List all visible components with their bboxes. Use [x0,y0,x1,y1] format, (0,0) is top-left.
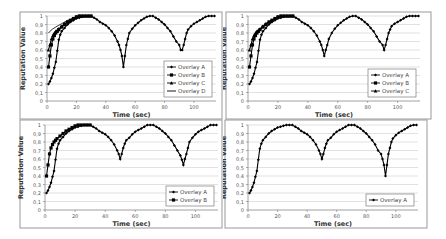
legend: Overlay AOverlay B [166,186,214,206]
x-tick-label: 80 [364,104,370,110]
legend-entry: Overlay A [180,189,207,196]
square-marker [374,81,377,84]
chart-svg: 00,10,20,30,40,50,60,70,80,9102040608010… [0,118,223,239]
y-tick-label: 0,5 [35,56,43,62]
x-tick-label: 80 [162,213,168,219]
y-tick-label: 0,4 [33,173,41,179]
square-marker [49,146,52,149]
y-tick-label: 0,2 [236,190,244,196]
x-tick-label: 40 [304,213,310,219]
x-tick-label: 100 [391,213,401,219]
chart-svg: 00,10,20,30,40,50,60,70,80,9102040608010… [223,118,446,239]
x-tick-label: 0 [43,213,46,219]
chart-frame [226,12,431,119]
y-tick-label: 0,5 [33,165,41,171]
x-tick-label: 0 [45,104,48,110]
y-tick-label: 0,2 [33,190,41,196]
x-tick-label: 60 [132,104,138,110]
x-tick-label: 20 [73,104,79,110]
square-marker [47,65,50,68]
y-tick-label: 0,7 [35,39,43,45]
chart-panel-top-right: 00,10,20,30,40,50,60,70,80,9102040608010… [223,0,446,120]
y-tick-label: 0,6 [33,156,41,162]
square-marker [48,54,51,57]
x-tick-label: 60 [335,104,341,110]
legend: Overlay A [366,194,414,206]
y-tick-label: 0,1 [35,90,43,96]
y-axis-label: Reputation Value [19,26,27,90]
x-tick-label: 20 [274,213,280,219]
square-marker [249,54,252,57]
square-marker [258,28,261,31]
legend-entry: Overlay A [382,72,409,79]
y-tick-label: 0,9 [33,131,41,137]
legend-entry: Overlay B [178,72,205,79]
square-marker [170,73,173,76]
y-tick-label: 0,3 [236,73,244,79]
legend-entry: Overlay C [382,88,409,95]
y-tick-label: 0,4 [236,173,244,179]
square-marker [57,28,60,31]
x-tick-label: 100 [191,213,201,219]
y-tick-label: 0,5 [236,56,244,62]
square-marker [63,23,66,26]
x-tick-label: 100 [393,104,403,110]
square-marker [248,65,251,68]
y-tick-label: 0,7 [236,39,244,45]
y-tick-label: 0,6 [35,47,43,53]
y-tick-label: 0,1 [236,90,244,96]
y-tick-label: 1 [241,122,244,128]
legend-entry: Overlay C [178,80,205,87]
x-tick-label: 60 [132,213,138,219]
y-tick-label: 0 [38,207,41,213]
y-tick-label: 0,1 [33,199,41,205]
y-tick-label: 0,3 [35,73,43,79]
legend-entry: Overlay A [178,64,205,71]
x-tick-label: 40 [305,104,311,110]
x-tick-label: 80 [363,213,369,219]
y-tick-label: 0,4 [35,64,43,70]
y-tick-label: 0,2 [236,81,244,87]
chart-frame [225,120,427,228]
y-tick-label: 0,5 [236,165,244,171]
x-tick-label: 20 [72,213,78,219]
x-tick-label: 80 [161,104,167,110]
chart-frame [20,120,222,228]
square-marker [55,137,58,140]
chart-panel-top-left: 00,10,20,30,40,50,60,70,80,9102040608010… [0,0,223,120]
y-tick-label: 0,6 [236,47,244,53]
chart-panel-bottom-right: 00,10,20,30,40,50,60,70,80,9102040608010… [223,118,446,239]
x-axis-label: Time (sec) [112,220,150,228]
x-tick-label: 60 [334,213,340,219]
square-marker [48,152,51,155]
legend: Overlay AOverlay BOverlay COverlay D [164,61,212,97]
y-tick-label: 0,8 [35,30,43,36]
square-marker [252,37,255,40]
legend: Overlay AOverlay BOverlay C [368,69,416,97]
chart-panel-bottom-left: 00,10,20,30,40,50,60,70,80,9102040608010… [0,118,223,239]
square-marker [51,37,54,40]
y-tick-label: 1 [241,13,244,19]
legend-entry: Overlay B [382,80,409,87]
y-tick-label: 0,7 [236,148,244,154]
x-tick-label: 0 [246,104,249,110]
y-tick-label: 0,2 [35,81,43,87]
x-tick-label: 40 [102,213,108,219]
legend-entry: Overlay D [178,88,205,95]
square-marker [50,43,53,46]
y-tick-label: 0,9 [236,22,244,28]
chart-svg: 00,10,20,30,40,50,60,70,80,9102040608010… [223,0,446,120]
y-tick-label: 0,8 [236,30,244,36]
y-tick-label: 0 [241,207,244,213]
y-tick-label: 0,8 [236,139,244,145]
x-axis-label: Time (sec) [314,220,352,228]
chart-svg: 00,10,20,30,40,50,60,70,80,9102040608010… [0,0,223,120]
x-tick-label: 100 [189,104,199,110]
y-axis-label: Reputation Value [17,135,25,199]
y-axis-label: Reputation Value [223,135,228,199]
square-marker [172,198,175,201]
y-tick-label: 0,4 [236,64,244,70]
y-tick-label: 0,9 [236,131,244,137]
y-tick-label: 0,8 [33,139,41,145]
y-tick-label: 0,7 [33,148,41,154]
